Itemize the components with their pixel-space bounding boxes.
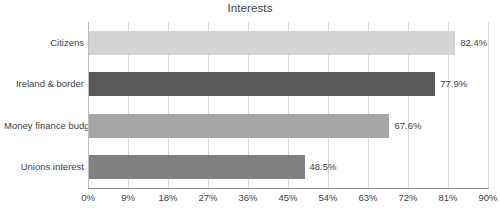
bar-chart: Interests CitizensIreland & borderMoney … — [0, 0, 500, 217]
x-tick-label: 81% — [438, 192, 457, 203]
x-tick-label: 90% — [478, 192, 497, 203]
chart-title: Interests — [0, 2, 500, 14]
x-tick-label: 27% — [198, 192, 217, 203]
x-tick-label: 18% — [158, 192, 177, 203]
x-tick-label: 63% — [358, 192, 377, 203]
x-tick-label: 9% — [121, 192, 135, 203]
bar — [89, 155, 305, 179]
x-tick-label: 36% — [238, 192, 257, 203]
category-label: Money finance budget — [4, 114, 88, 138]
x-tick-label: 72% — [398, 192, 417, 203]
bar-value-label: 48.5% — [306, 155, 337, 179]
x-tick-label: 0% — [81, 192, 95, 203]
bar-value-label: 82.4% — [456, 31, 487, 55]
x-tick-label: 54% — [318, 192, 337, 203]
x-tick-label: 45% — [278, 192, 297, 203]
category-label: Citizens — [4, 31, 88, 55]
plot-area: 82.4%77.9%67.6%48.5% — [88, 22, 488, 188]
x-axis-line — [88, 188, 489, 189]
bar — [89, 114, 389, 138]
bar-value-label: 77.9% — [436, 72, 467, 96]
bar-value-label: 67.6% — [390, 114, 421, 138]
gridline-90pct — [488, 22, 489, 188]
bar — [89, 72, 435, 96]
category-axis: CitizensIreland & borderMoney finance bu… — [0, 22, 88, 188]
bar — [89, 31, 455, 55]
category-label: Unions interest — [4, 155, 88, 179]
category-label: Ireland & border — [4, 72, 88, 96]
